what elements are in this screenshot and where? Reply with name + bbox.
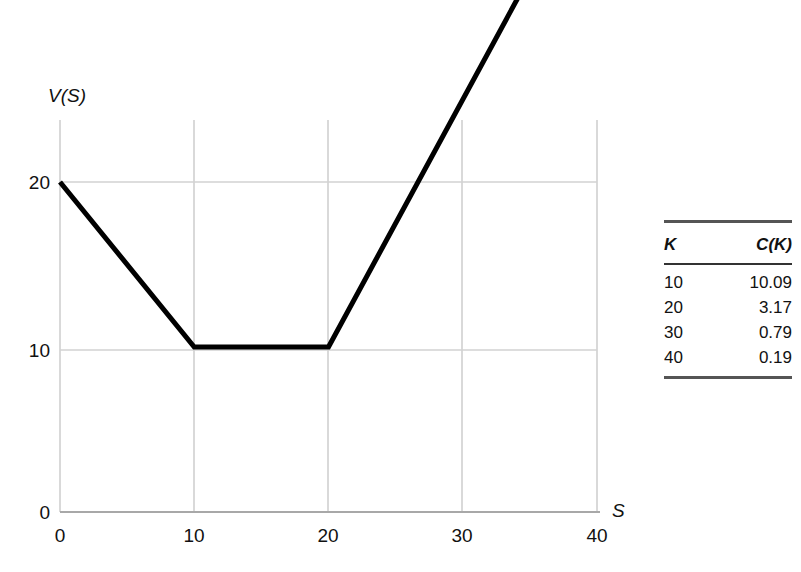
payoff-plot xyxy=(0,0,660,572)
x-tick-label-40: 40 xyxy=(567,525,627,547)
cell-ck: 10.09 xyxy=(720,270,792,295)
x-tick-label-30: 30 xyxy=(432,525,492,547)
cell-ck: 0.79 xyxy=(720,320,792,345)
table-header-row: K C(K) xyxy=(664,223,792,263)
table-body-grid: 10 10.09 20 3.17 30 0.79 40 0.19 xyxy=(664,270,792,370)
strike-price-table: K C(K) 10 10.09 20 3.17 30 xyxy=(664,220,792,379)
table-body-wrap: 10 10.09 20 3.17 30 0.79 40 0.19 xyxy=(664,265,792,376)
table-bottom-rule xyxy=(664,376,792,379)
vertical-gridlines xyxy=(60,120,597,512)
cell-k: 20 xyxy=(664,295,720,320)
y-tick-label-0: 0 xyxy=(4,502,50,524)
table-row: 30 0.79 xyxy=(664,320,792,345)
table-header-ck: C(K) xyxy=(720,223,792,263)
cell-k: 40 xyxy=(664,345,720,370)
y-tick-label-10: 10 xyxy=(4,340,50,362)
table-body: 10 10.09 20 3.17 30 0.79 40 0.19 xyxy=(664,270,792,370)
cell-k: 10 xyxy=(664,270,720,295)
table-row: 40 0.19 xyxy=(664,345,792,370)
y-axis-label: V(S) xyxy=(48,85,86,107)
payoff-figure: V(S) S 20 10 0 0 10 20 30 40 K C(K) 10 xyxy=(0,0,801,572)
table-row: 10 10.09 xyxy=(664,270,792,295)
cell-k: 30 xyxy=(664,320,720,345)
x-tick-label-20: 20 xyxy=(298,525,358,547)
table-grid: K C(K) xyxy=(664,223,792,263)
cell-ck: 3.17 xyxy=(720,295,792,320)
table-header-k: K xyxy=(664,223,720,263)
x-tick-label-10: 10 xyxy=(164,525,224,547)
table-head: K C(K) xyxy=(664,223,792,263)
x-tick-label-0: 0 xyxy=(30,525,90,547)
x-axis-label: S xyxy=(612,500,625,522)
cell-ck: 0.19 xyxy=(720,345,792,370)
table-row: 20 3.17 xyxy=(664,295,792,320)
y-tick-label-20: 20 xyxy=(4,172,50,194)
